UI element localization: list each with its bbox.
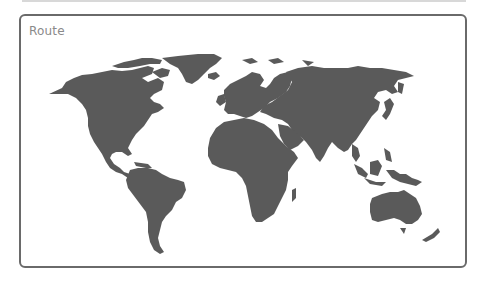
region-new-zealand[interactable] — [422, 228, 440, 242]
region-southeast-asia[interactable] — [352, 144, 422, 186]
top-divider — [22, 0, 466, 2]
region-tasmania[interactable] — [400, 228, 406, 234]
region-svalbard[interactable] — [242, 58, 314, 66]
region-australia[interactable] — [370, 190, 422, 224]
region-japan[interactable] — [382, 98, 394, 120]
world-map[interactable] — [21, 16, 465, 266]
region-iceland[interactable] — [208, 72, 220, 80]
route-map-panel: Route — [19, 14, 467, 268]
region-caribbean[interactable] — [134, 162, 152, 168]
region-kamchatka[interactable] — [398, 82, 404, 94]
region-south-america[interactable] — [126, 168, 186, 254]
region-madagascar[interactable] — [292, 188, 296, 202]
region-north-america[interactable] — [49, 66, 164, 180]
